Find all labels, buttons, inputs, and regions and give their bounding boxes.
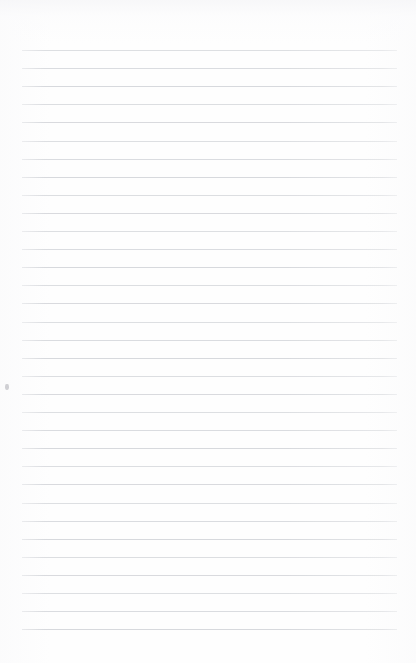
rule-line — [22, 376, 397, 377]
rule-line — [22, 267, 397, 268]
rule-line — [22, 86, 397, 87]
rule-line — [22, 231, 397, 232]
rule-lines-group — [0, 0, 416, 663]
rule-line — [22, 50, 397, 51]
rule-line — [22, 430, 397, 431]
rule-line — [22, 68, 397, 69]
rule-line — [22, 285, 397, 286]
rule-line — [22, 503, 397, 504]
rule-line — [22, 104, 397, 105]
rule-line — [22, 629, 397, 630]
rule-line — [22, 448, 397, 449]
rule-line — [22, 394, 397, 395]
rule-line — [22, 412, 397, 413]
rule-line — [22, 249, 397, 250]
rule-line — [22, 322, 397, 323]
rule-line — [22, 141, 397, 142]
rule-line — [22, 213, 397, 214]
rule-line — [22, 575, 397, 576]
left-margin-speck — [5, 384, 9, 390]
rule-line — [22, 557, 397, 558]
rule-line — [22, 122, 397, 123]
rule-line — [22, 177, 397, 178]
rule-line — [22, 521, 397, 522]
rule-line — [22, 539, 397, 540]
rule-line — [22, 159, 397, 160]
rule-line — [22, 484, 397, 485]
rule-line — [22, 358, 397, 359]
rule-line — [22, 303, 397, 304]
rule-line — [22, 466, 397, 467]
rule-line — [22, 340, 397, 341]
rule-line — [22, 593, 397, 594]
rule-line — [22, 611, 397, 612]
rule-line — [22, 195, 397, 196]
ruled-paper-page — [0, 0, 416, 663]
